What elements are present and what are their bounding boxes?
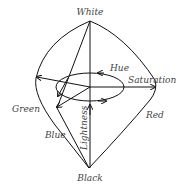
hsl-diagram: White Black Hue Saturation Green Red Blu… — [0, 0, 186, 189]
label-green: Green — [12, 104, 40, 114]
blue-arrow — [57, 87, 90, 107]
label-red: Red — [145, 110, 164, 120]
label-hue: Hue — [109, 63, 129, 73]
label-lightness: Lightness — [79, 105, 89, 151]
label-black: Black — [76, 173, 102, 183]
label-white: White — [77, 7, 104, 17]
label-blue: Blue — [44, 130, 66, 140]
cone-outline — [36, 21, 156, 168]
label-saturation: Saturation — [128, 75, 177, 85]
